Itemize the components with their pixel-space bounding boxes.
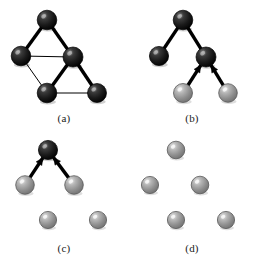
graph-node-bottom-left	[174, 84, 193, 105]
graph-node-bottom-left	[37, 83, 57, 104]
node-sphere	[39, 211, 56, 228]
node-layer	[11, 10, 106, 104]
node-sphere	[141, 176, 158, 193]
graph-node-bottom-left	[39, 211, 56, 230]
node-sphere	[11, 46, 31, 66]
panel-d-graph	[128, 130, 256, 260]
node-sphere	[149, 46, 168, 65]
node-sphere	[88, 84, 107, 103]
node-sphere	[219, 84, 238, 103]
graph-node-bottom-right	[88, 84, 107, 105]
graph-node-left	[16, 176, 35, 196]
graph-edge	[28, 56, 66, 57]
figure-root: (a) (b) (c) (d)	[0, 0, 257, 260]
graph-node-center	[191, 176, 209, 195]
panel-b: (b)	[128, 0, 256, 130]
panel-c-caption: (c)	[0, 243, 128, 254]
graph-node-center	[196, 47, 216, 69]
graph-node-bottom-right	[219, 84, 238, 104]
panel-a-caption: (a)	[0, 113, 128, 124]
node-layer	[141, 141, 234, 230]
graph-node-top	[167, 141, 185, 160]
graph-node-top	[173, 10, 193, 31]
node-sphere	[174, 84, 193, 103]
node-sphere	[196, 47, 216, 67]
node-layer	[16, 140, 107, 230]
graph-node-bottom-left	[167, 211, 184, 230]
graph-node-bottom-right	[89, 211, 106, 230]
graph-node-center	[63, 47, 83, 69]
node-sphere	[16, 176, 35, 195]
node-sphere	[89, 211, 106, 228]
panel-c: (c)	[0, 130, 128, 260]
panel-c-graph	[0, 130, 128, 260]
node-sphere	[63, 47, 83, 67]
graph-node-left	[11, 46, 31, 67]
node-sphere	[217, 211, 234, 228]
node-sphere	[173, 10, 193, 30]
node-sphere	[167, 141, 185, 159]
graph-node-left	[149, 46, 168, 67]
panel-a-graph	[0, 0, 128, 130]
graph-node-top	[37, 10, 57, 31]
node-sphere	[191, 176, 209, 194]
panel-d: (d)	[128, 130, 256, 260]
panel-d-caption: (d)	[128, 243, 256, 254]
node-sphere	[38, 140, 57, 159]
graph-node-bottom-right	[217, 211, 234, 230]
panel-b-caption: (b)	[128, 113, 256, 124]
node-sphere	[37, 83, 57, 103]
node-sphere	[65, 176, 84, 195]
panel-a: (a)	[0, 0, 128, 130]
graph-node-left	[141, 176, 158, 195]
graph-node-center	[65, 176, 84, 196]
node-sphere	[37, 10, 57, 30]
node-layer	[149, 10, 237, 104]
node-sphere	[167, 211, 184, 228]
panel-b-graph	[128, 0, 256, 130]
